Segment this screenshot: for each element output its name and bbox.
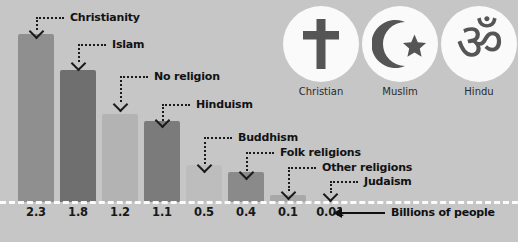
bar-christianity <box>18 34 54 202</box>
callout-label-no-religion: No religion <box>154 70 220 83</box>
callout-label-islam: Islam <box>112 38 144 51</box>
axis-note-label: Billions of people <box>391 206 495 219</box>
symbol-caption-hindu: Hindu <box>440 86 518 97</box>
bar-chart: 2.3 1.8 1.2 1.1 0.5 0.4 0.1 0.01 <box>0 0 330 242</box>
bar-value-islam: 1.8 <box>58 205 98 219</box>
bar-no-religion <box>102 114 138 202</box>
symbol-item-muslim: Muslim <box>361 6 439 97</box>
axis-note: Billions of people <box>333 206 495 219</box>
bar-value-buddhism: 0.5 <box>184 205 224 219</box>
bar-value-other-religions: 0.1 <box>268 205 308 219</box>
symbol-caption-muslim: Muslim <box>361 86 439 97</box>
cross-icon <box>299 17 343 71</box>
symbol-circle-christian <box>283 6 359 82</box>
om-icon: ॐ <box>456 16 503 68</box>
callout-label-other-religions: Other religions <box>322 161 412 174</box>
callout-label-christianity: Christianity <box>70 11 140 24</box>
bar-value-hinduism: 1.1 <box>142 205 182 219</box>
bar-value-christianity: 2.3 <box>16 205 56 219</box>
axis-baseline <box>0 201 518 204</box>
callout-label-buddhism: Buddhism <box>238 131 298 144</box>
bar-islam <box>60 70 96 202</box>
religion-population-infographic: 2.3 1.8 1.2 1.1 0.5 0.4 0.1 0.01 Christi… <box>0 0 518 242</box>
callout-label-judaism: Judaism <box>364 175 412 188</box>
bar-value-no-religion: 1.2 <box>100 205 140 219</box>
religion-symbols: Christian Muslim ॐ Hindu <box>282 6 518 116</box>
symbol-caption-christian: Christian <box>282 86 360 97</box>
left-arrow-icon <box>333 207 385 219</box>
symbol-circle-muslim <box>362 6 438 82</box>
bar-value-folk-religions: 0.4 <box>226 205 266 219</box>
bar-hinduism <box>144 121 180 202</box>
callout-label-hinduism: Hinduism <box>196 98 253 111</box>
bar-buddhism <box>186 165 222 202</box>
symbol-item-hindu: ॐ Hindu <box>440 6 518 97</box>
symbol-circle-hindu: ॐ <box>441 6 517 82</box>
callout-label-folk-religions: Folk religions <box>280 146 361 159</box>
symbol-item-christian: Christian <box>282 6 360 97</box>
crescent-star-icon <box>372 18 428 70</box>
bar-folk-religions <box>228 172 264 202</box>
